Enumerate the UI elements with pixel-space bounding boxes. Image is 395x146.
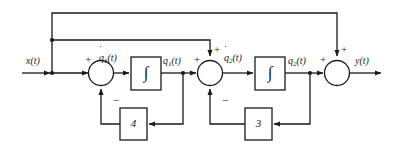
input-label: x(t) xyxy=(26,56,40,66)
summer-1-sign-bottom: − xyxy=(113,95,119,106)
junction-dot-q2 xyxy=(308,71,312,75)
output-label: y(t) xyxy=(355,56,369,66)
junction-dot-q1 xyxy=(181,71,185,75)
junction-dot-feedback-rail xyxy=(50,38,54,42)
summer-2-sign-bottom: − xyxy=(222,95,228,106)
signal-label-qdot1: q̇1(t) xyxy=(99,53,117,63)
summer-3-circle xyxy=(325,61,350,86)
signal-label-q1: q1(t) xyxy=(163,56,181,66)
junction-dot-input xyxy=(50,71,54,75)
summer-3-sign-top: + xyxy=(341,44,347,55)
summer-1-sign-left: + xyxy=(85,54,91,65)
gain-3-value: 3 xyxy=(245,118,272,129)
wire-inner-feedback-rail xyxy=(52,40,210,56)
integrator-1-glyph: ∫ xyxy=(131,64,161,81)
integrator-2-glyph: ∫ xyxy=(255,64,285,81)
signal-label-q2: q2(t) xyxy=(288,56,306,66)
diagram-vector-layer xyxy=(0,0,395,146)
signal-label-qdot2: q̇2(t) xyxy=(224,53,242,63)
summer-2-circle xyxy=(198,61,223,86)
summer-3-sign-left: + xyxy=(320,54,326,65)
summer-1-circle xyxy=(89,61,114,86)
summer-2-sign-top: + xyxy=(214,44,220,55)
gain-4-value: 4 xyxy=(120,118,147,129)
block-diagram-canvas: x(t) + − q̇1(t) ∫ q1(t) + + − q̇2(t) ∫ q… xyxy=(0,0,395,146)
summer-2-sign-left: + xyxy=(194,54,200,65)
